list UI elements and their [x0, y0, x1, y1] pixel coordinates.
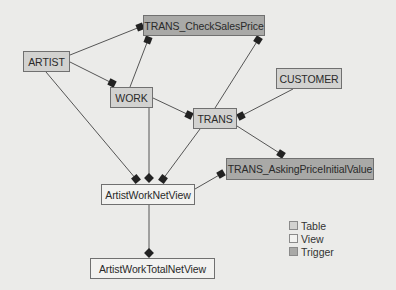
legend-label: Table: [301, 220, 326, 232]
square-marker-icon: [158, 174, 168, 184]
square-marker-icon: [216, 169, 226, 179]
node-label: ArtistWorkNetView: [105, 189, 190, 201]
node-customer[interactable]: CUSTOMER: [276, 68, 342, 89]
edge-customer-to-trans: [236, 89, 293, 121]
edge-artistworknetview-to-artistworktotalnetview: [144, 205, 154, 258]
edge-artist-to-work: [70, 62, 117, 88]
node-artistworknetview[interactable]: ArtistWorkNetView: [101, 184, 195, 205]
square-marker-icon: [236, 111, 245, 120]
node-label: CUSTOMER: [279, 73, 338, 85]
square-marker-icon: [143, 35, 152, 44]
node-label: ArtistWorkTotalNetView: [99, 263, 206, 275]
node-label: ARTIST: [28, 56, 65, 68]
node-work[interactable]: WORK: [110, 87, 153, 108]
legend-item-view: View: [289, 232, 334, 245]
node-label: TRANS_CheckSalesPrice: [144, 20, 263, 32]
legend: Table View Trigger: [289, 219, 334, 258]
table-swatch-icon: [289, 221, 298, 230]
node-trans_checksalesprice[interactable]: TRANS_CheckSalesPrice: [143, 15, 265, 36]
edge-trans-to-artistworknetview: [158, 129, 200, 184]
diamond-marker-icon: [144, 248, 154, 258]
edge-work-to-trans_checksalesprice: [130, 35, 153, 87]
view-swatch-icon: [289, 234, 298, 243]
trigger-swatch-icon: [289, 247, 298, 256]
edge-artist-to-trans_checksalesprice: [70, 22, 145, 55]
square-marker-icon: [253, 35, 263, 45]
node-trans_askingpriceinitialvalue[interactable]: TRANS_AskingPriceInitialValue: [226, 158, 374, 180]
node-label: TRANS: [197, 113, 232, 125]
diagram-canvas: [0, 0, 396, 290]
diamond-marker-icon: [144, 173, 154, 183]
edge-artistworknetview-to-trans_askingpriceinitialvalue: [195, 169, 226, 189]
edge-work-to-trans: [153, 98, 194, 120]
legend-label: Trigger: [301, 246, 334, 258]
node-label: TRANS_AskingPriceInitialValue: [228, 163, 373, 175]
node-label: WORK: [115, 92, 147, 104]
node-trans[interactable]: TRANS: [193, 108, 237, 129]
node-artist[interactable]: ARTIST: [23, 51, 70, 72]
edge-trans-to-trans_checksalesprice: [215, 35, 263, 108]
legend-label: View: [301, 233, 324, 245]
edge-work-to-artistworknetview: [144, 108, 154, 183]
node-artistworktotalnetview[interactable]: ArtistWorkTotalNetView: [90, 258, 215, 279]
legend-item-table: Table: [289, 219, 334, 232]
edge-trans-to-trans_askingpriceinitialvalue: [237, 126, 286, 159]
legend-item-trigger: Trigger: [289, 245, 334, 258]
